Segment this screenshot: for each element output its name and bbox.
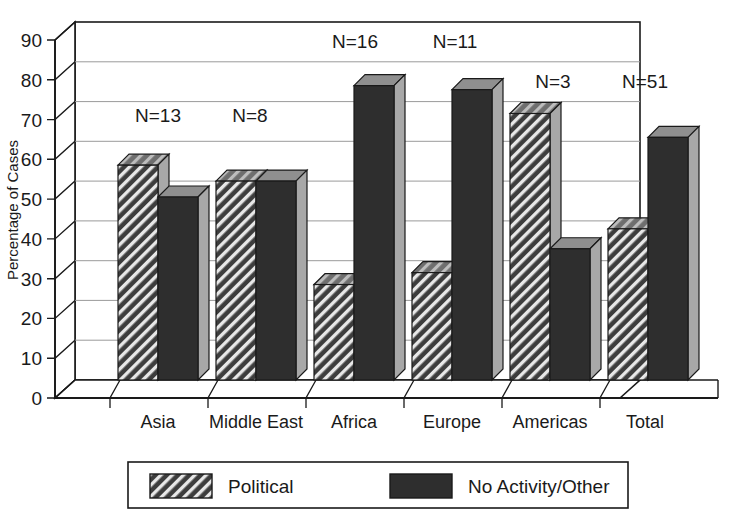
legend-label-no-activity-other: No Activity/Other (468, 476, 610, 497)
bar-front-face (550, 249, 590, 380)
bar-total-no-activity-other (648, 126, 699, 380)
bar-front-face (354, 86, 394, 380)
x-label-africa: Africa (331, 412, 378, 432)
bar-chart: 0 10 20 30 40 50 60 70 80 90 Percentage … (0, 0, 748, 522)
chart-canvas: 0 10 20 30 40 50 60 70 80 90 Percentage … (0, 0, 748, 522)
bar-front-face (412, 273, 452, 380)
x-label-americas: Americas (512, 412, 587, 432)
bar-africa-no-activity-other (354, 75, 405, 380)
bar-front-face (216, 181, 256, 380)
bar-front-face (118, 165, 158, 380)
x-label-asia: Asia (140, 412, 176, 432)
n-annotation-asia: N=13 (135, 105, 181, 126)
bar-front-face (608, 229, 648, 380)
legend: Political No Activity/Other (128, 462, 628, 508)
bar-front-face (452, 90, 492, 380)
bar-americas-no-activity-other (550, 238, 601, 380)
y-tick-10: 10 (21, 348, 42, 369)
bar-side-face (394, 75, 405, 380)
bar-front-face (510, 113, 550, 380)
legend-item-no-activity-other[interactable]: No Activity/Other (390, 474, 610, 498)
y-tick-0: 0 (31, 388, 42, 409)
bar-asia-no-activity-other (158, 186, 209, 380)
x-label-total: Total (626, 412, 664, 432)
bar-side-face (590, 238, 601, 380)
n-annotation-americas: N=3 (535, 71, 570, 92)
legend-swatch-no-activity-other (390, 474, 452, 498)
y-axis-title: Percentage of Cases (4, 140, 21, 280)
bar-side-face (492, 79, 503, 380)
bar-front-face (648, 137, 688, 380)
y-tick-40: 40 (21, 229, 42, 250)
bar-front-face (314, 285, 354, 380)
bar-front-face (158, 197, 198, 380)
y-tick-30: 30 (21, 269, 42, 290)
bar-europe-no-activity-other (452, 79, 503, 380)
bar-middle-east-no-activity-other (256, 170, 307, 380)
y-tick-50: 50 (21, 189, 42, 210)
n-annotation-total: N=51 (622, 71, 668, 92)
n-annotation-africa: N=16 (332, 31, 378, 52)
y-tick-20: 20 (21, 308, 42, 329)
x-label-europe: Europe (423, 412, 481, 432)
x-label-middle-east: Middle East (209, 412, 303, 432)
bar-front-face (256, 181, 296, 380)
n-annotation-europe: N=11 (433, 31, 478, 52)
legend-swatch-political (150, 474, 212, 498)
n-annotation-middle-east: N=8 (232, 105, 267, 126)
y-tick-60: 60 (21, 149, 42, 170)
bar-side-face (296, 170, 307, 380)
bar-side-face (688, 126, 699, 380)
bar-side-face (198, 186, 209, 380)
y-tick-90: 90 (21, 30, 42, 51)
y-tick-80: 80 (21, 70, 42, 91)
legend-label-political: Political (228, 476, 293, 497)
y-tick-70: 70 (21, 110, 42, 131)
